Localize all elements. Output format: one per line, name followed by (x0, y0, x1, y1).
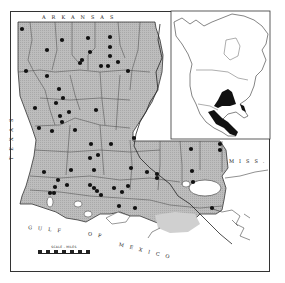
delta-marsh (155, 212, 200, 233)
lake-maurepas (182, 181, 190, 187)
label-texas: TEXAS (8, 113, 14, 160)
label-arkansas: ARKANSAS (42, 14, 119, 20)
calcasieu-lake (47, 197, 53, 207)
grand-lake (74, 201, 82, 207)
scale-ruler (38, 250, 90, 254)
scale-bar: SCALE - MILES (38, 245, 90, 254)
white-lake (84, 211, 92, 217)
scale-title: SCALE - MILES (38, 245, 90, 249)
louisiana-distribution-map (0, 0, 285, 283)
inset-north-america (171, 11, 270, 139)
label-miss: MISS. (229, 158, 269, 164)
